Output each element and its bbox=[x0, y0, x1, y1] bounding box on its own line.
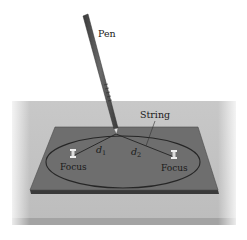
board-shadow bbox=[30, 190, 219, 194]
label-focus-left: Focus bbox=[60, 162, 87, 172]
ellipse-diagram: Pen String d1 d2 Focus Focus bbox=[0, 0, 247, 240]
label-string: String bbox=[140, 109, 170, 120]
label-d2-sub: 2 bbox=[137, 151, 141, 159]
label-focus-right: Focus bbox=[161, 163, 188, 173]
label-pen: Pen bbox=[98, 28, 116, 39]
diagram-canvas: Pen String d1 d2 Focus Focus bbox=[0, 0, 247, 240]
label-d1-sub: 1 bbox=[102, 149, 106, 157]
